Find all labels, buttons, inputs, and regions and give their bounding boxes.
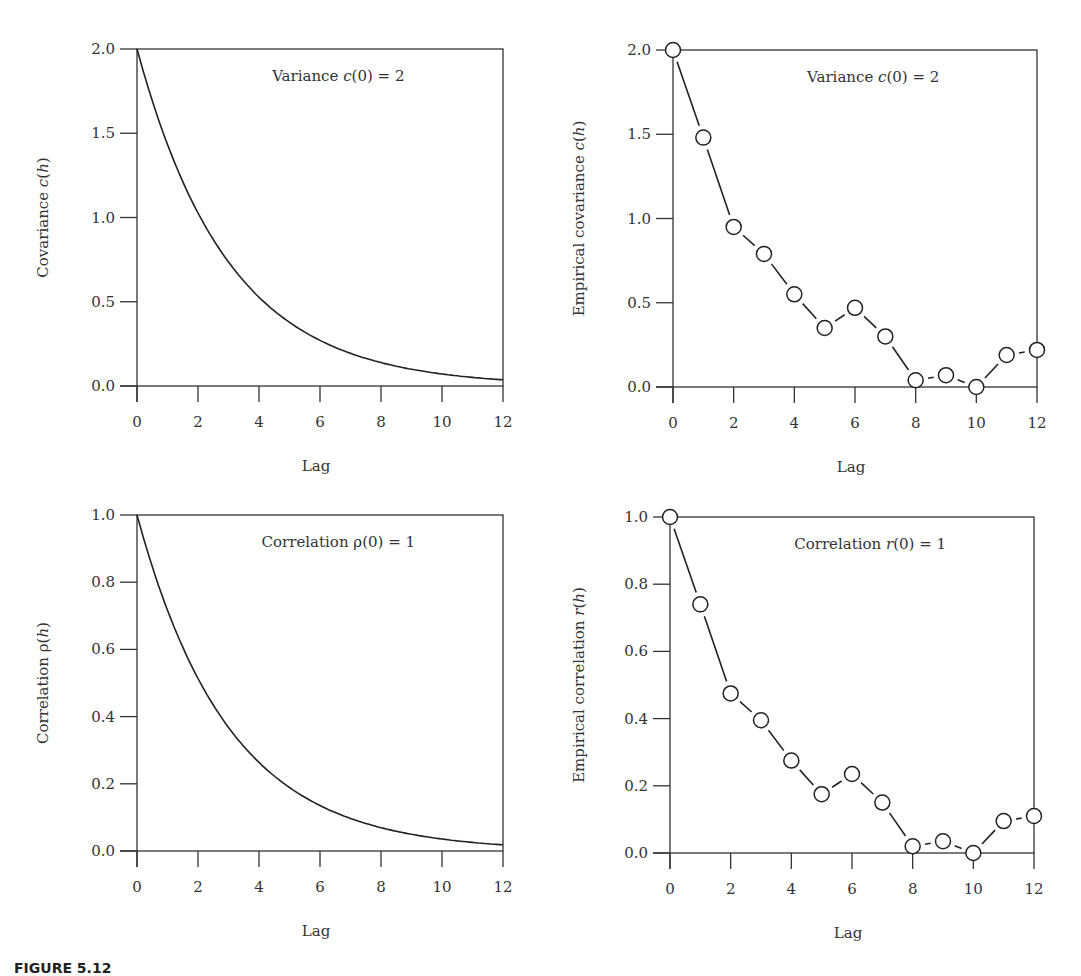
y-tick-label: 1.5 [627,125,651,143]
y-tick-label: 0.6 [624,642,648,660]
series-segment [743,235,755,245]
series-segment [800,770,814,785]
series-segment [677,62,699,126]
plot-frame [673,50,1037,387]
data-point-marker [848,300,863,315]
series-line [137,515,503,845]
x-axis-label: Lag [302,457,331,475]
x-tick-label: 4 [790,414,800,432]
y-tick-label: 0.5 [91,293,115,311]
y-tick-label: 0.4 [91,708,115,726]
x-axis-label: Lag [837,458,866,476]
series-segment [861,783,873,794]
series-segment [772,264,787,284]
x-tick-label: 6 [847,880,857,898]
data-point-marker [999,347,1014,362]
x-tick-label: 8 [908,880,918,898]
y-tick-label: 0.6 [91,640,115,658]
figure-caption: FIGURE 5.12 [14,960,111,976]
y-tick-label: 1.5 [91,124,115,142]
data-point-marker [666,43,681,58]
y-tick-label: 0.0 [91,377,115,395]
series-segment [674,529,696,593]
x-tick-label: 10 [964,880,983,898]
y-tick-label: 1.0 [624,508,648,526]
y-tick-label: 2.0 [627,41,651,59]
y-tick-label: 0.4 [624,710,648,728]
series-segment [803,304,817,319]
data-point-marker [723,686,738,701]
series-segment [832,781,842,787]
x-tick-label: 2 [729,414,739,432]
series-segment [769,730,784,750]
data-point-marker [757,246,772,261]
data-point-marker [939,368,954,383]
panel-covariance: 0.00.51.01.52.0024681012LagCovariance c(… [34,40,513,475]
data-point-marker [814,787,829,802]
data-point-marker [693,597,708,612]
x-tick-label: 8 [376,413,386,431]
data-point-marker [787,287,802,302]
x-tick-label: 12 [1027,414,1046,432]
data-point-marker [845,767,860,782]
x-axis-label: Lag [834,924,863,942]
y-tick-label: 0.2 [91,775,115,793]
series-segment [707,149,729,215]
y-tick-label: 0.0 [624,844,648,862]
series-segment [1019,352,1025,353]
data-point-marker [936,834,951,849]
data-point-marker [996,814,1011,829]
data-point-marker [1030,342,1045,357]
x-tick-label: 0 [665,880,675,898]
y-tick-label: 1.0 [91,209,115,227]
y-axis-label: Covariance c(h) [34,157,52,277]
data-point-marker [875,795,890,810]
y-tick-label: 0.2 [624,777,648,795]
y-tick-label: 2.0 [91,40,115,58]
data-point-marker [663,510,678,525]
data-point-marker [969,380,984,395]
y-tick-label: 0.0 [91,842,115,860]
y-tick-label: 0.8 [91,573,115,591]
series-segment [982,830,995,844]
x-tick-label: 10 [432,413,451,431]
x-tick-label: 4 [787,880,797,898]
data-point-marker [905,839,920,854]
y-axis-label: Empirical correlation r(h) [570,587,588,783]
x-tick-label: 8 [376,878,386,896]
x-tick-label: 6 [850,414,860,432]
x-tick-label: 10 [432,878,451,896]
x-tick-label: 0 [668,414,678,432]
y-tick-label: 1.0 [91,506,115,524]
plot-frame [137,49,503,386]
x-tick-label: 8 [911,414,921,432]
x-tick-label: 12 [1024,880,1043,898]
data-point-marker [817,321,832,336]
series-segment [955,846,962,849]
data-point-marker [784,753,799,768]
series-segment [925,843,931,844]
variance-annotation: Variance c(0) = 2 [271,67,404,85]
y-tick-label: 0.0 [627,378,651,396]
data-point-marker [726,219,741,234]
x-tick-label: 4 [254,413,264,431]
y-tick-label: 0.5 [627,294,651,312]
series-line [137,49,503,380]
series-segment [864,316,876,327]
variance-annotation: Correlation ρ(0) = 1 [262,533,415,551]
variance-annotation: Variance c(0) = 2 [806,68,939,86]
plot-frame [137,515,503,851]
panel-empirical-covariance: 0.00.51.01.52.0024681012LagEmpirical cov… [570,41,1047,476]
series-segment [985,364,998,378]
series-segment [1016,818,1022,819]
x-axis-label: Lag [302,922,331,940]
x-tick-label: 12 [493,413,512,431]
y-axis-label: Empirical covariance c(h) [570,121,588,317]
y-axis-label: Correlation ρ(h) [34,622,52,744]
panel-correlation: 0.00.20.40.60.81.0024681012LagCorrelatio… [34,506,513,940]
series-segment [958,380,965,383]
x-tick-label: 2 [726,880,736,898]
x-tick-label: 2 [193,413,203,431]
x-tick-label: 6 [315,878,325,896]
